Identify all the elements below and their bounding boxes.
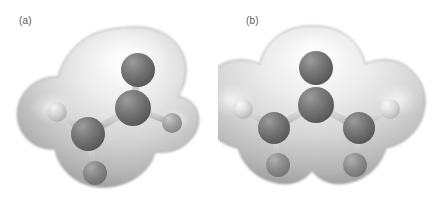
atom-h-bottom: [83, 161, 107, 185]
atom-h-left-outer: [233, 99, 253, 119]
atom-h-right-lower: [343, 153, 367, 177]
atom-h-right-outer: [380, 99, 400, 119]
panel-b: (b): [218, 0, 437, 211]
electron-density-surface-a: [17, 27, 198, 187]
atom-c-center: [115, 90, 151, 126]
atom-c-top: [299, 51, 333, 85]
figure-canvas: (a): [0, 0, 437, 211]
molecule-b-rendering: [218, 0, 437, 211]
panel-a-label: (a): [19, 16, 32, 26]
atom-h-right: [162, 113, 182, 133]
panel-a: (a): [0, 0, 219, 211]
atom-h-left-lower: [266, 153, 290, 177]
atom-c-center: [298, 87, 334, 123]
atom-c-right: [343, 112, 375, 144]
atom-c-left: [258, 112, 290, 144]
panel-b-label: (b): [246, 16, 259, 26]
atom-c-top: [121, 53, 155, 87]
molecule-a-rendering: [0, 0, 219, 211]
atom-h-left: [47, 102, 67, 122]
atom-c-left: [71, 117, 105, 151]
